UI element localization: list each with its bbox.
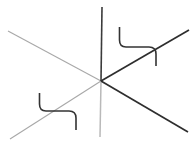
vertical-line-lower-line: [100, 81, 101, 137]
diagram-canvas: [0, 0, 196, 159]
line-diagram: [0, 0, 196, 159]
vertical-line-upper-line: [101, 7, 102, 81]
